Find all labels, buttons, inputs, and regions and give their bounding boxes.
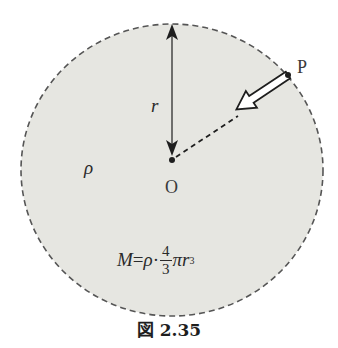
formula-mass-symbol: M xyxy=(117,249,133,271)
radius-label: r xyxy=(151,96,158,115)
fraction-numerator: 4 xyxy=(160,244,172,261)
figure-caption: 図 2.35 xyxy=(0,322,338,339)
density-label: ρ xyxy=(84,158,93,177)
point-label: P xyxy=(297,58,307,76)
formula-dot: · xyxy=(153,249,159,271)
formula-exponent: 3 xyxy=(189,255,194,266)
center-point-O xyxy=(169,157,175,163)
formula-r: r xyxy=(182,249,189,271)
diagram-canvas xyxy=(0,0,338,348)
fraction-denominator: 3 xyxy=(162,261,170,277)
point-P xyxy=(285,72,291,78)
formula-equals: = xyxy=(133,249,144,271)
mass-formula: M = ρ · 4 3 π r3 xyxy=(117,240,194,280)
sphere-gravity-diagram: r ρ O P M = ρ · 4 3 π r3 図 2.35 xyxy=(0,0,338,348)
formula-fraction: 4 3 xyxy=(160,244,172,277)
formula-pi: π xyxy=(173,249,183,271)
center-label: O xyxy=(165,178,178,196)
formula-rho: ρ xyxy=(144,249,153,271)
